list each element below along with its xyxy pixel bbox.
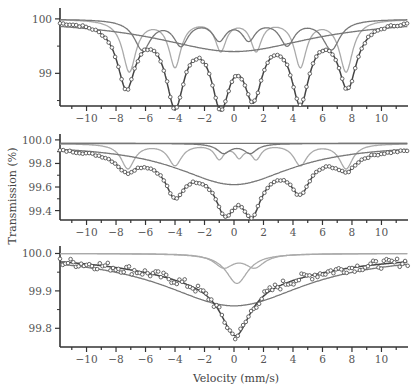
data-point xyxy=(130,273,134,277)
x-tick-label: 8 xyxy=(349,226,356,238)
x-tick-label: −4 xyxy=(167,112,183,124)
data-point xyxy=(139,53,143,57)
data-point xyxy=(220,108,224,112)
data-point xyxy=(211,191,215,195)
data-point xyxy=(227,214,231,218)
data-point xyxy=(403,259,407,263)
data-point xyxy=(259,79,263,83)
data-point xyxy=(159,60,163,64)
data-point xyxy=(240,205,244,209)
data-point xyxy=(271,288,275,292)
data-point xyxy=(230,80,234,84)
data-point xyxy=(148,274,152,278)
data-point xyxy=(289,183,293,187)
data-point xyxy=(126,88,130,92)
data-point xyxy=(244,320,248,324)
data-point xyxy=(340,77,344,81)
x-tick-label: −4 xyxy=(167,226,183,238)
data-point xyxy=(220,212,224,216)
data-point xyxy=(159,275,163,279)
data-point xyxy=(315,55,319,59)
data-point xyxy=(223,321,227,325)
data-point xyxy=(175,282,179,286)
data-point xyxy=(295,97,299,101)
data-point xyxy=(250,216,254,220)
data-point xyxy=(207,72,211,76)
data-point xyxy=(207,188,211,192)
data-point xyxy=(285,63,289,67)
data-point xyxy=(334,58,338,62)
data-point xyxy=(405,149,409,153)
data-point xyxy=(69,257,73,261)
data-point xyxy=(302,191,306,195)
data-point xyxy=(156,53,160,57)
y-tick-label: 100.0 xyxy=(22,134,52,146)
x-tick-label: 2 xyxy=(260,353,267,365)
data-point xyxy=(107,157,111,161)
data-point xyxy=(353,66,357,70)
data-point xyxy=(136,60,140,64)
y-tick-label: 99.8 xyxy=(29,157,52,169)
data-point xyxy=(350,166,354,170)
x-tick-label: 2 xyxy=(260,226,267,238)
y-tick-label: 99.6 xyxy=(29,181,53,193)
data-point xyxy=(257,302,261,306)
x-tick-label: −6 xyxy=(138,112,154,124)
data-point xyxy=(117,65,121,69)
data-point xyxy=(224,100,228,104)
data-point xyxy=(347,86,351,90)
panel-top: −10−8−6−4−2024681099100 xyxy=(32,8,409,124)
data-point xyxy=(279,55,283,59)
data-point xyxy=(302,98,306,102)
data-point xyxy=(237,74,241,78)
x-tick-label: 6 xyxy=(319,112,326,124)
data-point xyxy=(253,99,257,103)
data-point xyxy=(214,198,218,202)
panel-middle: −10−8−6−4−2024681099.499.699.8100.0 xyxy=(22,134,409,238)
data-point xyxy=(127,265,131,269)
data-point xyxy=(233,337,237,341)
y-tick-label: 99.8 xyxy=(29,322,52,334)
data-point xyxy=(72,260,76,264)
data-point xyxy=(152,49,156,53)
data-point xyxy=(175,197,179,201)
data-point xyxy=(95,267,99,271)
x-tick-label: 6 xyxy=(319,353,326,365)
y-tick-label: 100 xyxy=(32,13,52,25)
data-point xyxy=(253,213,257,217)
x-tick-label: 8 xyxy=(349,353,356,365)
data-point xyxy=(357,55,361,59)
data-point xyxy=(337,66,341,70)
data-point xyxy=(58,257,62,261)
data-point xyxy=(130,78,134,82)
data-point xyxy=(165,184,169,188)
data-point xyxy=(133,67,137,71)
data-point xyxy=(256,91,260,95)
data-point xyxy=(204,63,208,67)
data-point xyxy=(230,209,234,213)
data-point xyxy=(265,289,269,293)
data-point xyxy=(211,84,215,88)
data-point xyxy=(347,170,351,174)
data-point xyxy=(165,80,169,84)
data-point xyxy=(66,261,70,265)
data-point xyxy=(308,274,312,278)
x-tick-label: −6 xyxy=(138,353,154,365)
data-point xyxy=(310,277,314,281)
x-tick-label: 0 xyxy=(231,226,238,238)
data-point xyxy=(305,185,309,189)
x-tick-label: 8 xyxy=(349,112,356,124)
data-point xyxy=(266,186,270,190)
data-point xyxy=(246,214,250,218)
x-tick-label: 10 xyxy=(375,112,388,124)
data-point xyxy=(332,271,336,275)
data-point xyxy=(240,78,244,82)
x-tick-label: 0 xyxy=(231,112,238,124)
data-point xyxy=(374,260,378,264)
data-point xyxy=(113,55,117,59)
data-point xyxy=(204,292,208,296)
x-tick-label: 6 xyxy=(319,226,326,238)
data-point xyxy=(297,278,301,282)
data-point xyxy=(345,271,349,275)
mossbauer-figure: −10−8−6−4−2024681099100 −10−8−6−4−202468… xyxy=(0,0,417,392)
